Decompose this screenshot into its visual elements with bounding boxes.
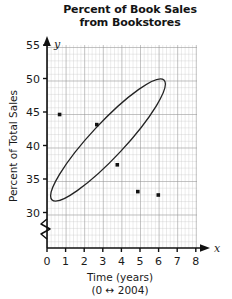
data-point <box>116 163 120 167</box>
y-axis-symbol: y <box>53 38 61 51</box>
y-axis-label: Percent of Total Sales <box>7 90 19 202</box>
x-axis-label: Time (years) <box>86 271 153 283</box>
y-tick-label: 30 <box>26 207 40 220</box>
x-tick-label: 2 <box>81 255 88 268</box>
data-point <box>157 193 161 197</box>
x-axis-label-note: (0 ↔ 2004) <box>91 284 148 296</box>
scatter-plot: 55 50 45 40 35 30 0 1 2 3 4 5 6 7 8 y x … <box>0 0 232 299</box>
x-tick-labels: 0 1 2 3 4 5 6 7 8 <box>44 255 200 268</box>
y-tick-label: 55 <box>26 39 40 52</box>
y-tick-label: 50 <box>26 73 40 86</box>
data-point <box>136 190 140 194</box>
y-tick-label: 45 <box>26 106 40 119</box>
chart-container: Percent of Book Sales from Bookstores <box>0 0 232 299</box>
data-point <box>58 113 62 117</box>
x-tick-label: 3 <box>99 255 106 268</box>
y-tick-labels: 55 50 45 40 35 30 <box>26 39 40 220</box>
y-tick-label: 35 <box>26 173 40 186</box>
x-tick-label: 0 <box>44 255 51 268</box>
y-tick-label: 40 <box>26 140 40 153</box>
x-axis-symbol: x <box>214 242 221 255</box>
data-point <box>95 123 99 127</box>
x-tick-label: 6 <box>155 255 162 268</box>
x-tick-label: 5 <box>137 255 144 268</box>
plot-gridlines <box>47 45 197 248</box>
x-tick-label: 7 <box>174 255 181 268</box>
x-tick-label: 4 <box>118 255 125 268</box>
x-tick-label: 8 <box>192 255 199 268</box>
x-tick-label: 1 <box>62 255 69 268</box>
